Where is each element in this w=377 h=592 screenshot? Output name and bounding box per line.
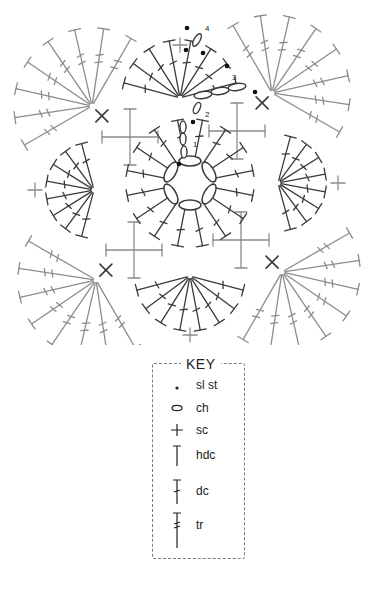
dot-icon [167, 376, 187, 396]
key-item-sc: sc [153, 420, 244, 440]
svg-text:4: 4 [205, 24, 210, 33]
key-item-ch: ch [153, 398, 244, 418]
cropped-caption: ... [8, 582, 38, 592]
key-item-tr: tr [153, 510, 244, 550]
plus-icon [167, 420, 187, 440]
chain-icon [167, 398, 187, 418]
key-item-sl-st: sl st [153, 376, 244, 396]
key-item-hdc: hdc [153, 442, 244, 468]
crochet-chart: 1234 [0, 0, 377, 345]
hdc-icon [167, 442, 187, 468]
svg-text:1: 1 [193, 140, 198, 149]
key-title: KEY [181, 356, 221, 372]
tr-icon [167, 510, 187, 550]
dc-icon [167, 476, 187, 506]
stitch-key: KEY sl st ch sc hdc dc tr [152, 363, 245, 559]
key-item-dc: dc [153, 476, 244, 506]
svg-text:2: 2 [205, 110, 210, 119]
svg-text:3: 3 [232, 73, 237, 82]
center-motif [46, 40, 327, 331]
